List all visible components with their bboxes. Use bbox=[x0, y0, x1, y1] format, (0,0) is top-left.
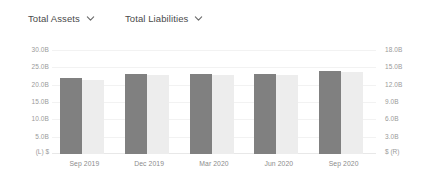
left-axis-tick-label: 30.0B bbox=[32, 46, 50, 53]
chevron-down-icon bbox=[86, 14, 95, 23]
bar-group bbox=[319, 36, 363, 154]
bar-total-assets[interactable] bbox=[125, 74, 147, 154]
dropdown-total-liabilities-label: Total Liabilities bbox=[125, 13, 188, 24]
chevron-down-icon bbox=[194, 14, 203, 23]
bar-group bbox=[125, 36, 169, 154]
right-axis-tick-label: 6.0B bbox=[385, 115, 399, 122]
bar-total-assets[interactable] bbox=[190, 74, 212, 154]
bar-total-liabilities[interactable] bbox=[212, 75, 234, 154]
dropdown-total-assets[interactable]: Total Assets bbox=[26, 11, 97, 26]
right-axis-tick-label: 18.0B bbox=[385, 46, 403, 53]
bar-total-assets[interactable] bbox=[319, 71, 341, 154]
left-axis-tick-label: 5.0B bbox=[35, 133, 49, 140]
bar-total-assets[interactable] bbox=[60, 78, 82, 154]
left-axis-tick-label: 15.0B bbox=[32, 98, 50, 105]
category-label: Mar 2020 bbox=[182, 160, 247, 167]
left-axis-tick-label: 10.0B bbox=[32, 115, 50, 122]
left-axis-corner-label: (L) $ bbox=[36, 148, 49, 155]
category-label: Jun 2020 bbox=[246, 160, 311, 167]
category-label: Dec 2019 bbox=[117, 160, 182, 167]
dropdown-total-liabilities[interactable]: Total Liabilities bbox=[123, 11, 205, 26]
left-axis-tick-label: 20.0B bbox=[32, 81, 50, 88]
bar-total-liabilities[interactable] bbox=[82, 80, 104, 154]
dual-axis-bar-chart: (L) $ $ (R) Sep 2019Dec 2019Mar 2020Jun … bbox=[0, 36, 428, 179]
bar-group bbox=[254, 36, 298, 154]
right-axis-tick-label: 9.0B bbox=[385, 98, 399, 105]
left-axis-tick-label: 25.0B bbox=[32, 63, 50, 70]
bar-group bbox=[190, 36, 234, 154]
bar-total-liabilities[interactable] bbox=[276, 75, 298, 154]
category-label: Sep 2020 bbox=[311, 160, 376, 167]
bar-total-liabilities[interactable] bbox=[147, 75, 169, 154]
right-axis-tick-label: 15.0B bbox=[385, 63, 403, 70]
dropdown-total-assets-label: Total Assets bbox=[28, 13, 80, 24]
right-axis-corner-label: $ (R) bbox=[385, 148, 399, 155]
chart-toolbar: Total Assets Total Liabilities bbox=[0, 0, 428, 36]
bar-total-liabilities[interactable] bbox=[341, 72, 363, 154]
category-label: Sep 2019 bbox=[52, 160, 117, 167]
plot-area: Sep 2019Dec 2019Mar 2020Jun 2020Sep 2020 bbox=[52, 36, 376, 154]
bar-group bbox=[60, 36, 104, 154]
right-axis-tick-label: 12.0B bbox=[385, 81, 403, 88]
right-axis-tick-label: 3.0B bbox=[385, 133, 399, 140]
bar-total-assets[interactable] bbox=[254, 74, 276, 154]
